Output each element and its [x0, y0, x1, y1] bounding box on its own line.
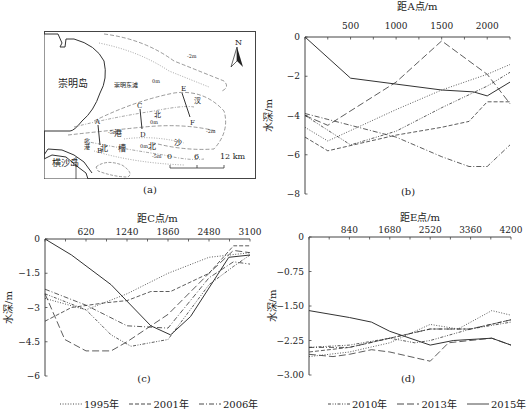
x-tick-label: 3360: [459, 225, 482, 235]
legend-label: 2013年: [421, 396, 456, 411]
x-tick-label: 840: [341, 225, 358, 235]
y-tick-label: 0: [298, 232, 304, 242]
y-tick-label: −3.00: [276, 370, 304, 380]
x-axis-title: 距E点/m: [400, 212, 441, 223]
legend-swatch: [397, 400, 419, 408]
legend-item: 2010年: [328, 396, 387, 411]
y-axis-title: 水深/m: [267, 289, 278, 322]
legend-swatch: [328, 400, 350, 408]
caption-d: (d): [388, 373, 428, 384]
legend-label: 1995年: [84, 396, 119, 411]
legend-item: 2015年: [467, 396, 526, 411]
legend-label: 2001年: [153, 396, 188, 411]
caption-b: (b): [388, 186, 428, 197]
series-line-2010年: [309, 322, 511, 347]
legend-item: 1995年: [60, 396, 119, 411]
legend-label: 2006年: [223, 396, 258, 411]
y-tick-label: −2.25: [276, 336, 304, 346]
legend-item: 2013年: [397, 396, 456, 411]
y-tick-label: −1.50: [276, 301, 304, 311]
x-tick-label: 2520: [419, 225, 442, 235]
caption-c: (c): [124, 373, 164, 384]
x-tick-label: 4200: [500, 225, 523, 235]
legend-label: 2010年: [352, 396, 387, 411]
legend-swatch: [129, 400, 151, 408]
legend-item: 2001年: [129, 396, 188, 411]
x-tick-label: 1680: [378, 225, 401, 235]
legend-swatch: [60, 400, 82, 408]
legend-left: 1995年2001年2006年: [60, 396, 258, 411]
series-line-2006年: [309, 320, 511, 348]
y-tick-label: −0.75: [276, 267, 304, 277]
legend-item: 2006年: [199, 396, 258, 411]
legend-label: 2015年: [491, 396, 526, 411]
legend-right: 2010年2013年2015年: [328, 396, 526, 411]
chart-d-svg: 84016802520336042000−0.75−1.50−2.25−3.00…: [0, 0, 528, 415]
legend-swatch: [467, 400, 489, 408]
legend-swatch: [199, 400, 221, 408]
series-line-2015年: [309, 311, 511, 346]
series-line-2013年: [309, 338, 511, 361]
